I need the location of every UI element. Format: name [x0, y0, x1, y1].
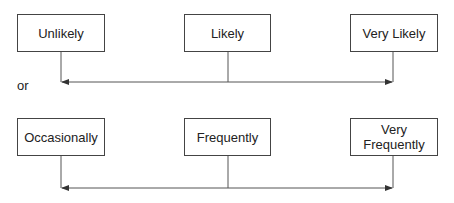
box-likely: Likely: [184, 14, 271, 52]
box-occasionally: Occasionally: [17, 118, 105, 156]
scale-one-connector: [61, 51, 393, 82]
scale-two-connector: [61, 155, 393, 188]
box-very-frequently: Very Frequently: [350, 118, 438, 156]
box-label: Very Frequently: [363, 122, 424, 152]
box-label: Frequently: [197, 130, 258, 145]
box-label: Very Likely: [363, 26, 426, 41]
box-label: Occasionally: [24, 130, 98, 145]
box-very-likely: Very Likely: [350, 14, 438, 52]
box-label: Likely: [211, 26, 244, 41]
box-unlikely: Unlikely: [17, 14, 105, 52]
or-label: or: [17, 78, 29, 93]
box-label: Unlikely: [38, 26, 84, 41]
box-frequently: Frequently: [184, 118, 271, 156]
